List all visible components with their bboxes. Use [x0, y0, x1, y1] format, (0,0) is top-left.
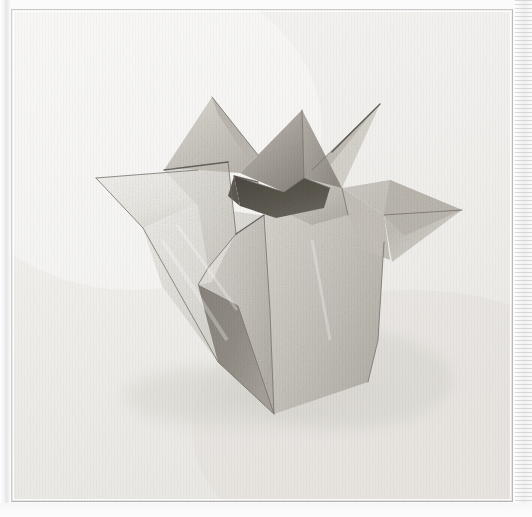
- page-bottom-edge: [0, 503, 532, 517]
- photo-page: Origami box folded from textured paper, …: [0, 0, 532, 517]
- photo-frame: Origami box folded from textured paper, …: [11, 9, 513, 502]
- page-left-edge: [0, 0, 10, 517]
- origami-photograph: [12, 10, 512, 501]
- page-right-edge: [515, 0, 532, 517]
